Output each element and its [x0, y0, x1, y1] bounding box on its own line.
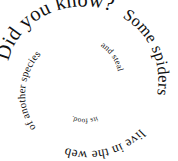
- spiral-segment-5: and steal: [99, 39, 126, 72]
- spiral-segment-4-text: of another species: [16, 48, 43, 133]
- spiral-segment-3: live in the web: [62, 127, 149, 161]
- spiral-segment-2: Some spiders: [120, 5, 173, 97]
- spiral-text-graphic: Did you know? Some spiders live in the w…: [0, 0, 178, 161]
- spiral-segment-5-text: and steal: [99, 39, 126, 72]
- spiral-segment-4: of another species: [16, 48, 43, 133]
- spiral-segment-1-text: Did you know?: [0, 0, 117, 62]
- spiral-segment-3-text: live in the web: [62, 127, 149, 161]
- spiral-segment-6: its food.: [70, 114, 99, 125]
- spiral-segment-6-text: its food.: [70, 114, 99, 125]
- spiral-text-canvas: Did you know? Some spiders live in the w…: [0, 0, 178, 161]
- spiral-segment-1: Did you know?: [0, 0, 117, 62]
- spiral-segment-2-text: Some spiders: [120, 5, 173, 97]
